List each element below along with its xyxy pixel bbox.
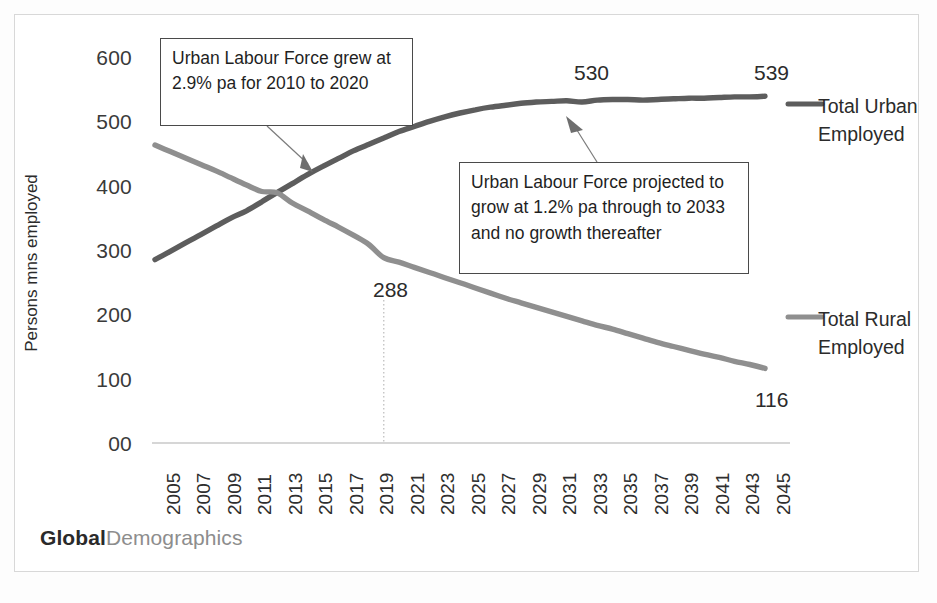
x-tick-2009: 2009 — [224, 473, 246, 515]
data-label-urban-2033: 530 — [574, 61, 609, 85]
x-tick-2007: 2007 — [193, 473, 215, 515]
x-tick-2027: 2027 — [498, 473, 520, 515]
data-label-urban-2045: 539 — [754, 61, 789, 85]
x-tick-2031: 2031 — [559, 473, 581, 515]
y-tick-500: 500 — [72, 110, 132, 134]
x-tick-2029: 2029 — [529, 473, 551, 515]
x-tick-2039: 2039 — [681, 473, 703, 515]
y-tick-600: 600 — [72, 46, 132, 70]
legend-label-total-urban-employed: Total Urban Employed — [818, 93, 930, 148]
y-axis-title: Persons mns employed — [22, 168, 42, 358]
y-tick-100: 100 — [72, 368, 132, 392]
data-label-rural-2045: 116 — [755, 388, 788, 412]
x-tick-2021: 2021 — [407, 473, 429, 515]
x-tick-2043: 2043 — [742, 473, 764, 515]
x-tick-2041: 2041 — [712, 473, 734, 515]
annotation-callout-urban-projected-growth: Urban Labour Force projected to grow at … — [459, 162, 749, 274]
watermark-light-text: Demographics — [106, 526, 243, 549]
y-tick-0: 00 — [72, 432, 132, 456]
x-tick-2011: 2011 — [254, 474, 276, 515]
data-label-rural-2020: 288 — [373, 278, 408, 302]
x-tick-2013: 2013 — [285, 473, 307, 515]
x-tick-2025: 2025 — [468, 473, 490, 515]
x-tick-2017: 2017 — [346, 473, 368, 515]
callout-1-leader — [267, 126, 313, 172]
x-tick-2045: 2045 — [773, 473, 795, 515]
watermark-globaldemographics: GlobalDemographics — [40, 526, 243, 550]
y-tick-400: 400 — [72, 175, 132, 199]
x-tick-2037: 2037 — [651, 473, 673, 515]
annotation-callout-urban-historic-growth: Urban Labour Force grew at 2.9% pa for 2… — [160, 38, 413, 126]
watermark-bold-text: Global — [40, 526, 106, 549]
chart-screenshot: Persons mns employed 600 500 400 300 200… — [0, 0, 937, 603]
x-tick-2023: 2023 — [437, 473, 459, 515]
callout-2-leader — [566, 116, 597, 162]
x-tick-2005: 2005 — [163, 473, 185, 515]
y-tick-300: 300 — [72, 239, 132, 263]
y-tick-200: 200 — [72, 303, 132, 327]
x-tick-2033: 2033 — [590, 473, 612, 515]
x-tick-2019: 2019 — [376, 473, 398, 515]
x-tick-2015: 2015 — [315, 473, 337, 515]
legend-label-total-rural-employed: Total Rural Employed — [818, 306, 937, 361]
x-tick-2035: 2035 — [620, 473, 642, 515]
